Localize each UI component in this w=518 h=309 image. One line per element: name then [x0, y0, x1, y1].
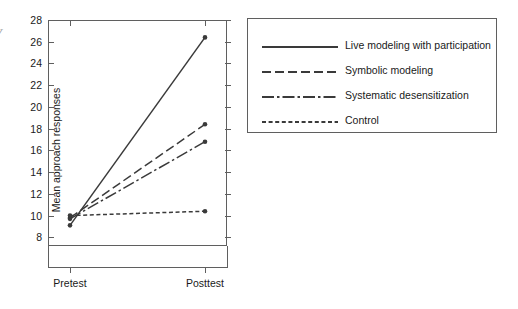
y-tick-label: 26: [30, 36, 42, 47]
data-point: [203, 35, 208, 40]
y-tick-label: 22: [30, 80, 42, 91]
y-tick-label: 20: [30, 102, 42, 113]
plot-area: Mean approach responses 8101214161820222…: [48, 16, 231, 262]
legend-item[interactable]: Systematic desensitization: [262, 88, 469, 102]
x-tick-mark: [205, 267, 206, 273]
clipped-edge-glyph: y: [0, 22, 5, 42]
y-tick-label: 10: [30, 210, 42, 221]
chart-figure: y Mean approach responses 81012141618202…: [0, 0, 518, 309]
legend-line-swatch: [262, 39, 338, 51]
series-live-modeling-with-participation: [68, 35, 208, 228]
data-point: [203, 122, 208, 127]
y-axis-lower-stub-right: [227, 246, 228, 268]
legend-label: Systematic desensitization: [345, 90, 469, 101]
y-tick-label: 18: [30, 123, 42, 134]
series-lines: [48, 20, 227, 246]
y-tick-label: 16: [30, 145, 42, 156]
legend-label: Control: [345, 115, 379, 126]
legend-label: Symbolic modeling: [345, 65, 433, 76]
legend: Live modeling with participationSymbolic…: [247, 18, 497, 133]
y-tick-label: 8: [36, 232, 42, 243]
data-point: [68, 213, 73, 218]
series-symbolic-modeling: [68, 122, 208, 220]
legend-line-swatch: [262, 64, 338, 76]
series-control: [68, 209, 208, 218]
legend-label: Live modeling with participation: [345, 40, 491, 51]
x-axis-line: [48, 267, 228, 268]
x-tick-label: Pretest: [53, 278, 86, 289]
y-tick-label: 14: [30, 167, 42, 178]
series-systematic-desensitization: [68, 139, 208, 221]
legend-item[interactable]: Symbolic modeling: [262, 63, 433, 77]
legend-item[interactable]: Live modeling with participation: [262, 38, 491, 52]
y-tick-label: 24: [30, 58, 42, 69]
legend-line-swatch: [262, 89, 338, 101]
y-axis-lower-stub: [48, 246, 49, 268]
data-point: [68, 223, 73, 228]
x-tick-label: Posttest: [186, 278, 224, 289]
y-tick-label: 12: [30, 189, 42, 200]
x-tick-mark: [70, 267, 71, 273]
data-point: [203, 139, 208, 144]
legend-line-swatch: [262, 114, 338, 126]
y-tick-label: 28: [30, 15, 42, 26]
data-point: [203, 209, 208, 214]
legend-item[interactable]: Control: [262, 113, 379, 127]
